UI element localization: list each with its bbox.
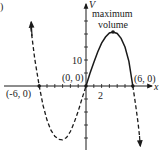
panel-label: ) [0,1,3,13]
y-tick-label-10: 10 [72,55,82,66]
arrow-right-down [140,136,141,146]
x-axis-label: x [153,81,159,92]
x-tick-label-2: 2 [98,90,103,101]
volume-graph: ) (-6, 0) (0, [0,0,164,154]
label-origin: (0, 0) [62,72,84,84]
point-max-volume [111,30,115,34]
curve-dashed-left [31,28,86,140]
point-origin [84,84,88,88]
annotation-line2: volume [98,19,129,30]
point-6-0 [131,84,135,88]
label-neg6-0: (-6, 0) [6,88,31,100]
point-neg6-0 [37,84,41,88]
annotation-line1: maximum [92,8,133,19]
label-6-0: (6, 0) [134,73,156,85]
arrow-left-up [31,22,32,36]
curve-solid-domain [86,32,133,86]
curve-dashed-right [133,86,140,136]
